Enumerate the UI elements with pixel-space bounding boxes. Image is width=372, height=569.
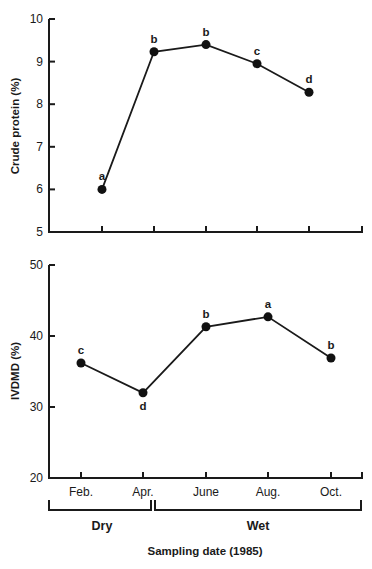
cp-significance-letter: b: [150, 33, 157, 45]
ivdmd-significance-letter: c: [78, 344, 85, 356]
x-axis-title: Sampling date (1985): [147, 545, 262, 557]
cp-y-tick-label: 8: [36, 97, 43, 111]
ivdmd-data-point: [77, 358, 86, 367]
cp-data-point: [150, 47, 159, 56]
ivdmd-x-tick-label: Aug.: [256, 485, 281, 499]
cp-significance-letter: d: [305, 73, 312, 85]
ivdmd-y-tick-label: 30: [30, 400, 44, 414]
ivdmd-data-point: [202, 322, 211, 331]
figure: Crude protein (%) 5678910abbcd IVDMD (%)…: [0, 0, 372, 569]
ivdmd-panel: IVDMD (%) 20304050Feb.Apr.JuneAug.Oct.cd…: [9, 258, 362, 533]
ivdmd-x-tick-label: June: [193, 485, 219, 499]
cp-data-point: [253, 59, 262, 68]
ivdmd-axes: [49, 265, 362, 478]
season-label-wet: Wet: [247, 519, 271, 533]
cp-y-tick-label: 9: [36, 55, 43, 69]
season-bracket-wet: [155, 500, 361, 510]
cp-data-point: [202, 40, 211, 49]
ivdmd-y-tick-label: 50: [30, 258, 44, 272]
ivdmd-significance-letter: b: [202, 308, 209, 320]
cp-significance-letter: a: [99, 170, 106, 182]
ivdmd-significance-letter: b: [327, 339, 334, 351]
cp-y-tick-label: 5: [36, 225, 43, 239]
crude-protein-panel: Crude protein (%) 5678910abbcd: [9, 12, 362, 239]
season-label-dry: Dry: [92, 519, 113, 533]
ivdmd-x-tick-label: Oct.: [320, 485, 342, 499]
cp-axes: [49, 19, 362, 232]
ivdmd-data-point: [264, 312, 273, 321]
ivdmd-data-point: [327, 354, 336, 363]
crude-protein-y-axis-title: Crude protein (%): [9, 78, 21, 175]
ivdmd-y-tick-label: 40: [30, 329, 44, 343]
ivdmd-x-tick-label: Apr.: [132, 485, 153, 499]
cp-data-point: [98, 185, 107, 194]
cp-series-line: [102, 45, 309, 190]
cp-significance-letter: c: [254, 45, 261, 57]
cp-y-tick-label: 6: [36, 182, 43, 196]
cp-data-point: [305, 88, 314, 97]
cp-y-tick-label: 7: [36, 140, 43, 154]
cp-y-tick-label: 10: [30, 12, 44, 26]
ivdmd-y-tick-label: 20: [30, 471, 44, 485]
ivdmd-significance-letter: d: [139, 400, 146, 412]
cp-significance-letter: b: [202, 26, 209, 38]
ivdmd-x-tick-label: Feb.: [69, 485, 93, 499]
ivdmd-significance-letter: a: [265, 298, 272, 310]
ivdmd-y-axis-title: IVDMD (%): [9, 342, 21, 400]
season-bracket-dry: [49, 500, 151, 510]
ivdmd-data-point: [139, 388, 148, 397]
